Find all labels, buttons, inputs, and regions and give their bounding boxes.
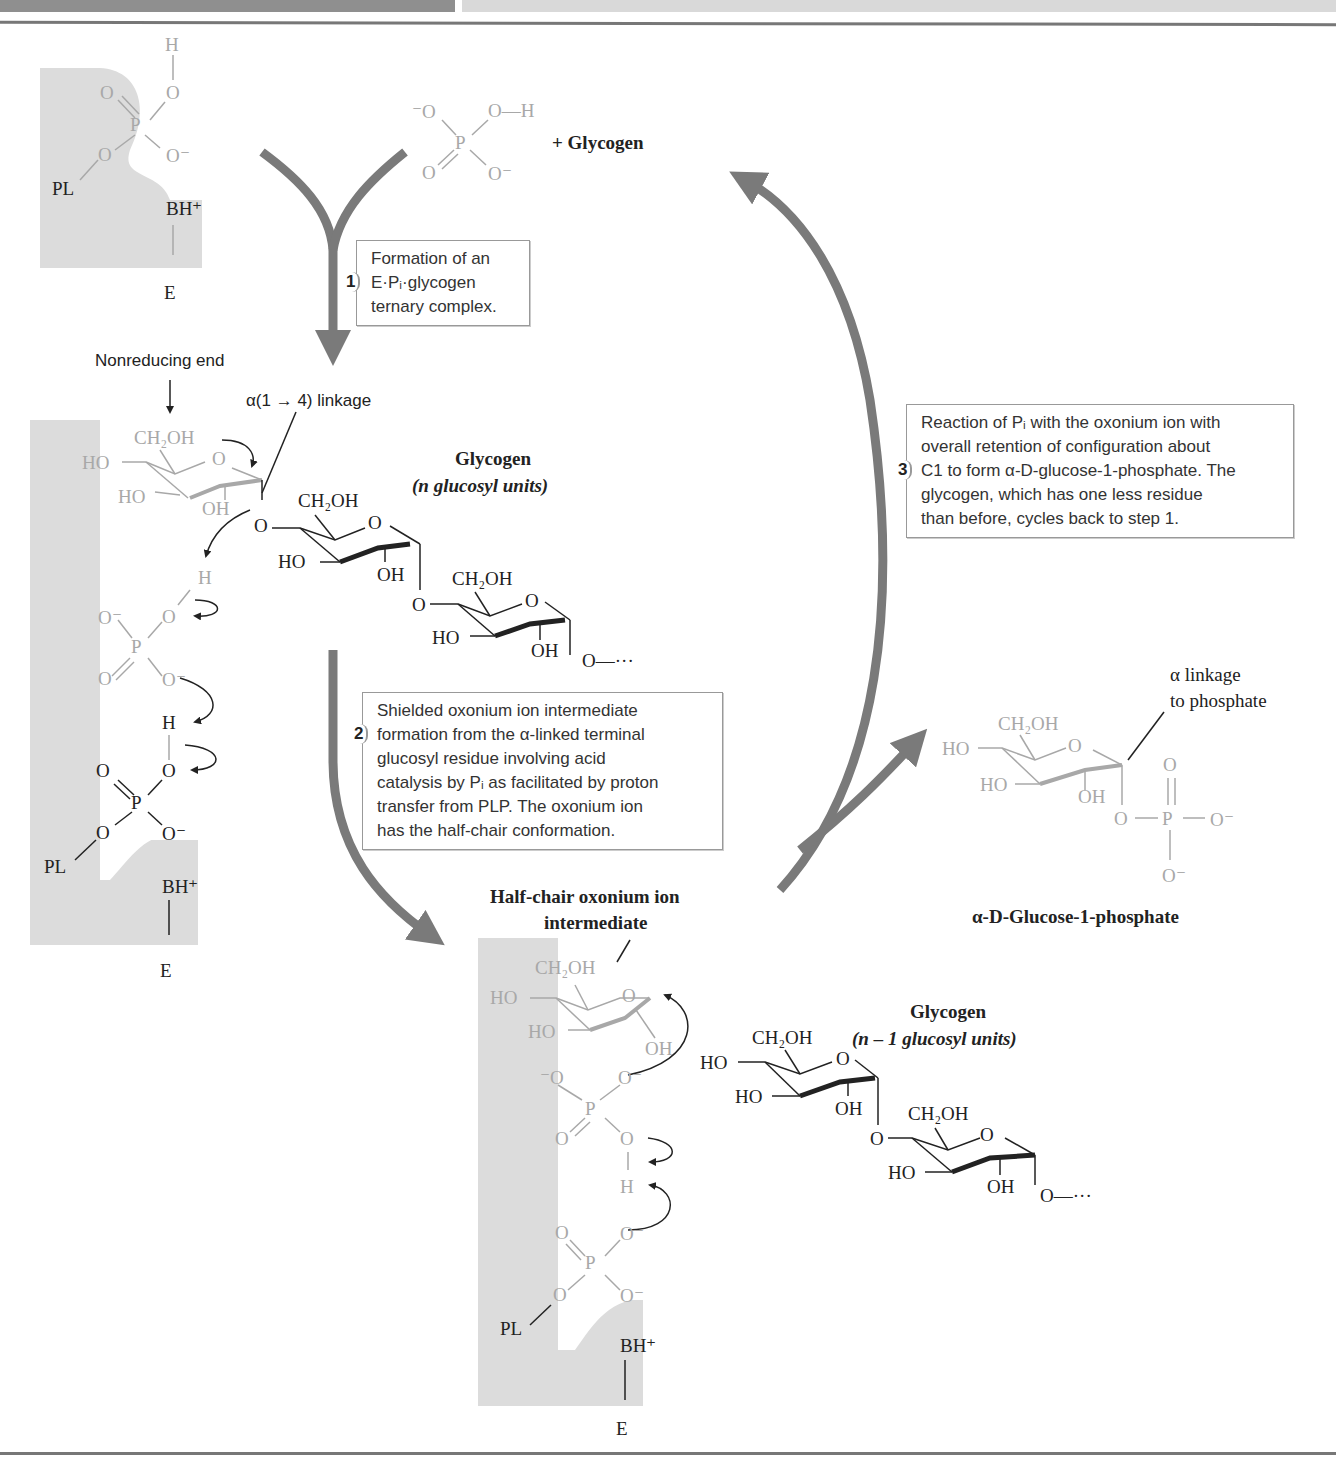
step-2-line: catalysis by Pᵢ as facilitated by proton [377, 771, 712, 795]
atom-p: P [131, 636, 142, 658]
atom-o: O [96, 822, 110, 844]
step-2-line: formation from the α-linked terminal [377, 723, 712, 747]
oh-label: OH [377, 564, 404, 586]
atom-p: P [130, 114, 141, 136]
ho-label: HO [490, 987, 517, 1009]
atom-o: O [166, 82, 180, 104]
chain-continuation: O—··· [1040, 1185, 1092, 1207]
oh-label: OH [987, 1176, 1014, 1198]
ring-o-label: O [836, 1048, 850, 1070]
ch2oh-label: CH₂OH [298, 490, 358, 512]
atom-o: O [98, 668, 112, 690]
ho-label: HO [82, 452, 109, 474]
step-3-line: overall retention of configuration about [921, 435, 1283, 459]
ring-o-label: O [980, 1124, 994, 1146]
atom-p: P [131, 792, 142, 814]
atom-o: O [422, 162, 436, 184]
atom-p: P [1162, 808, 1173, 830]
oh-label: OH [531, 640, 558, 662]
step-3-line: C1 to form α-D-glucose-1-phosphate. The [921, 459, 1283, 483]
atom-o-minus: O⁻ [620, 1222, 644, 1245]
oh-label: OH [645, 1038, 672, 1060]
ch2oh-label: CH₂OH [134, 427, 194, 449]
alpha-linkage-label: α(1 → 4) linkage [246, 391, 371, 411]
ch2oh-label: CH₂OH [998, 713, 1058, 735]
atom-o: O [162, 760, 176, 782]
pl-label: PL [44, 856, 66, 878]
atom-o-minus: ⁻O [412, 100, 436, 123]
atom-o: O [620, 1128, 634, 1150]
ho-label: HO [735, 1086, 762, 1108]
atom-p: P [585, 1098, 596, 1120]
atom-o-minus: O⁻ [162, 822, 186, 845]
pl-label: PL [52, 178, 74, 200]
atom-o: O [1163, 754, 1177, 776]
glycosidic-o-label: O [870, 1128, 884, 1150]
atom-o-minus: O⁻ [620, 1284, 644, 1307]
atom-h: H [198, 567, 212, 589]
product-name: α-D-Glucose-1-phosphate [972, 906, 1179, 928]
step-1-callout: Formation of an E·Pᵢ·glycogen ternary co… [356, 240, 530, 326]
atom-o: O [98, 144, 112, 166]
atom-p: P [455, 132, 466, 154]
step-2-callout: Shielded oxonium ion intermediate format… [362, 692, 723, 850]
bh-label: BH⁺ [620, 1334, 656, 1357]
oh-label: OH [1078, 786, 1105, 808]
ho-label: HO [980, 774, 1007, 796]
ho-label: HO [432, 627, 459, 649]
step-2-line: has the half-chair conformation. [377, 819, 712, 843]
ring-o-label: O [368, 512, 382, 534]
ho-label: HO [118, 486, 145, 508]
step-1-line: E·Pᵢ·glycogen [371, 271, 519, 295]
atom-oh: O—H [488, 100, 534, 122]
atom-h: H [165, 34, 179, 56]
ho-label: HO [700, 1052, 727, 1074]
intermediate-title: intermediate [544, 912, 647, 934]
oxonium-o-label: O [622, 985, 636, 1007]
ho-label: HO [888, 1162, 915, 1184]
ch2oh-label: CH₂OH [752, 1027, 812, 1049]
atom-o-minus: O⁻ [1210, 808, 1234, 831]
glycogen-units: (n – 1 glucosyl units) [852, 1028, 1017, 1050]
glycosidic-o-label: O [254, 515, 268, 537]
enzyme-label: E [164, 282, 176, 304]
step-3-line: Reaction of Pᵢ with the oxonium ion with [921, 411, 1283, 435]
ch2oh-label: CH₂OH [452, 568, 512, 590]
oh-label: OH [202, 498, 229, 520]
nonreducing-end-label: Nonreducing end [95, 351, 224, 371]
step-3-line: glycogen, which has one less residue [921, 483, 1283, 507]
glycosidic-o-label: O [412, 594, 426, 616]
oh-label: OH [835, 1098, 862, 1120]
atom-o-minus: ⁻O [540, 1066, 564, 1089]
atom-h: H [620, 1176, 634, 1198]
enzyme-label: E [160, 960, 172, 982]
glycogen-units: (n glucosyl units) [412, 475, 548, 497]
bh-label: BH⁺ [166, 197, 202, 220]
alpha-linkage-label: to phosphate [1170, 690, 1267, 712]
pl-label: PL [500, 1318, 522, 1340]
plus-glycogen-label: + Glycogen [552, 132, 644, 154]
step-3-line: than before, cycles back to step 1. [921, 507, 1283, 531]
atom-o: O [1114, 808, 1128, 830]
atom-o: O [555, 1222, 569, 1244]
alpha-linkage-label: α linkage [1170, 664, 1241, 686]
atom-o: O [100, 82, 114, 104]
ch2oh-label: CH₂OH [535, 957, 595, 979]
atom-p: P [585, 1252, 596, 1274]
ho-label: HO [278, 551, 305, 573]
atom-o-minus: O⁻ [162, 668, 186, 691]
step-2-line: transfer from PLP. The oxonium ion [377, 795, 712, 819]
atom-o-minus: O⁻ [1162, 864, 1186, 887]
chain-continuation: O—··· [582, 650, 634, 672]
glycogen-title: Glycogen [455, 448, 531, 470]
atom-o: O [162, 606, 176, 628]
step-2-line: Shielded oxonium ion intermediate [377, 699, 712, 723]
atom-o-minus: O⁻ [166, 144, 190, 167]
atom-o: O [96, 760, 110, 782]
ch2oh-label: CH₂OH [908, 1103, 968, 1125]
atom-o-minus: O⁻ [618, 1066, 642, 1089]
step-1-line: ternary complex. [371, 295, 519, 319]
step-3-callout: Reaction of Pᵢ with the oxonium ion with… [906, 404, 1294, 538]
step-2-line: glucosyl residue involving acid [377, 747, 712, 771]
step-1-line: Formation of an [371, 247, 519, 271]
